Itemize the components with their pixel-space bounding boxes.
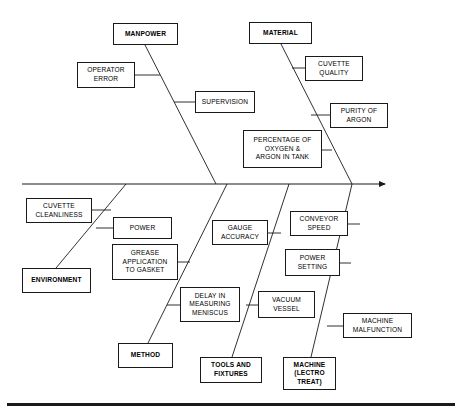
cause-box-cuvette-quality[interactable]: CUVETTE QUALITY	[305, 56, 363, 81]
category-box-environment[interactable]: ENVIRONMENT	[22, 268, 91, 293]
cause-box-purity-of-argon[interactable]: PURITY OF ARGON	[330, 103, 388, 128]
cause-box-gauge-accuracy[interactable]: GAUGE ACCURACY	[212, 220, 268, 245]
cause-box-machine-malfunction[interactable]: MACHINE MALFUNCTION	[343, 313, 412, 338]
cause-box-percentage-oxygen-argon[interactable]: PERCENTAGE OF OXYGEN & ARGON IN TANK	[243, 130, 322, 168]
cause-box-cuvette-cleanliness[interactable]: CUVETTE CLEANLINESS	[26, 198, 92, 223]
fishbone-diagram: MANPOWEROPERATOR ERRORSUPERVISIONMATERIA…	[0, 0, 464, 419]
bone-manpower	[145, 45, 216, 184]
cause-box-vacuum-vessel[interactable]: VACUUM VESSEL	[258, 291, 315, 318]
cause-box-delay-measuring-meniscus[interactable]: DELAY IN MEASURING MENISCUS	[180, 287, 240, 322]
category-box-machine-lectro-treat[interactable]: MACHINE (LECTRO TREAT)	[283, 357, 336, 390]
category-box-tools-and-fixtures[interactable]: TOOLS AND FIXTURES	[200, 357, 262, 383]
cause-box-power-setting[interactable]: POWER SETTING	[285, 249, 340, 276]
category-box-manpower[interactable]: MANPOWER	[113, 23, 178, 45]
category-box-material[interactable]: MATERIAL	[249, 22, 312, 44]
bone-tools-and-fixtures	[232, 184, 289, 357]
category-box-method[interactable]: METHOD	[118, 343, 173, 368]
cause-box-conveyor-speed[interactable]: CONVEYOR SPEED	[290, 211, 348, 236]
cause-box-grease-application[interactable]: GREASE APPLICATION TO GASKET	[112, 244, 178, 280]
cause-box-supervision[interactable]: SUPERVISION	[195, 91, 255, 113]
cause-box-operator-error[interactable]: OPERATOR ERROR	[77, 62, 135, 88]
cause-box-power[interactable]: POWER	[113, 217, 172, 239]
bottom-divider-rule	[7, 403, 455, 406]
